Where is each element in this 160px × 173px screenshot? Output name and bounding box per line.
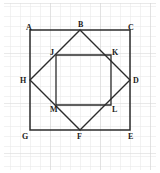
vertex-label-e: E bbox=[128, 133, 133, 141]
vertex-label-l: L bbox=[112, 106, 117, 114]
geometry-figure: A B C D E F G H J K L M bbox=[0, 0, 160, 173]
vertex-label-j: J bbox=[50, 49, 54, 57]
vertex-label-b: B bbox=[78, 21, 83, 29]
vertex-label-c: C bbox=[128, 24, 134, 32]
vertex-label-k: K bbox=[112, 49, 118, 57]
vertex-label-d: D bbox=[133, 77, 139, 85]
vertex-label-a: A bbox=[26, 24, 32, 32]
shape-inscribed-diamond bbox=[30, 30, 130, 130]
shape-outer-square bbox=[30, 30, 130, 130]
vertex-label-h: H bbox=[20, 77, 26, 85]
shape-inner-square bbox=[56, 55, 111, 105]
vertex-label-g: G bbox=[22, 133, 28, 141]
vertex-label-m: M bbox=[50, 106, 58, 114]
vertex-label-f: F bbox=[77, 133, 82, 141]
